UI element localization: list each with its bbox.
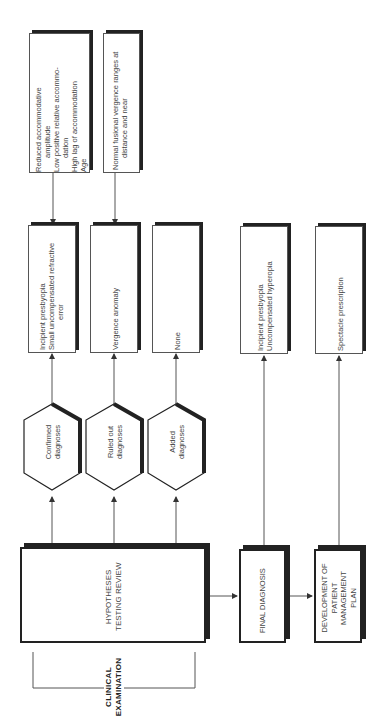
hexagon-label-confirmed: Confirmed diagnoses xyxy=(44,404,62,480)
result-text-final-diagnosis: Incipient presbyopia Uncompensated hyper… xyxy=(256,227,274,351)
management-plan-box: DEVELOPMENT OF PATIENT MANAGEMENT PLAN xyxy=(314,549,362,643)
result-line: Incipient presbyopia xyxy=(256,227,265,351)
evidence-line: dation xyxy=(61,36,70,172)
result-line: Uncompensated hyperopia xyxy=(265,227,274,351)
evidence-line: Low positive relative accommo- xyxy=(52,36,61,172)
evidence-box-ruled-out: Normal fusional vergence ranges at dista… xyxy=(103,33,140,173)
management-plan-label: DEVELOPMENT OF PATIENT MANAGEMENT PLAN xyxy=(320,555,358,641)
evidence-line: distance and near xyxy=(120,38,129,170)
final-diagnosis-label: FINAL DIAGNOSIS xyxy=(258,563,267,633)
evidence-box-confirmed: Reduced accommodative amplitude Low posi… xyxy=(29,33,90,173)
hypotheses-review-box: HYPOTHESES TESTING REVIEW xyxy=(20,547,206,643)
result-box-ruled-out: Vergence anomaly xyxy=(90,225,138,353)
clinical-examination-label: CLINICAL EXAMINATION xyxy=(104,654,124,720)
evidence-line: amplitude xyxy=(43,36,52,172)
evidence-text-ruled-out: Normal fusional vergence ranges at dista… xyxy=(111,38,129,170)
evidence-line: Normal fusional vergence ranges at xyxy=(111,38,120,170)
result-box-management: Spectacle prescription xyxy=(315,226,363,354)
hypotheses-review-label: HYPOTHESES TESTING REVIEW xyxy=(104,563,124,631)
result-text-management: Spectacle prescription xyxy=(336,227,345,351)
result-text-confirmed: Incipient presbyopia Small uncompensated… xyxy=(38,226,65,350)
result-text-ruled-out: Vergence anomaly xyxy=(111,226,120,350)
evidence-line: Age xyxy=(79,36,88,172)
result-box-added: None xyxy=(152,225,200,353)
result-line: Small uncompensated refractive xyxy=(47,226,56,350)
hexagon-label-ruled-out: Ruled out diagnoses xyxy=(106,404,124,480)
hexagon-label-added: Added diagnoses xyxy=(168,404,186,480)
result-line: Vergence anomaly xyxy=(111,226,120,350)
final-diagnosis-box: FINAL DIAGNOSIS xyxy=(239,549,286,643)
result-line: None xyxy=(173,226,182,350)
result-box-confirmed: Incipient presbyopia Small uncompensated… xyxy=(28,225,76,353)
evidence-text-confirmed: Reduced accommodative amplitude Low posi… xyxy=(34,36,88,172)
result-line: Incipient presbyopia xyxy=(38,226,47,350)
result-line: Spectacle prescription xyxy=(336,227,345,351)
result-line: error xyxy=(56,226,65,350)
evidence-line: High lag of accommodation xyxy=(70,36,79,172)
result-box-final-diagnosis: Incipient presbyopia Uncompensated hyper… xyxy=(240,226,288,354)
result-text-added: None xyxy=(173,226,182,350)
evidence-line: Reduced accommodative xyxy=(34,36,43,172)
